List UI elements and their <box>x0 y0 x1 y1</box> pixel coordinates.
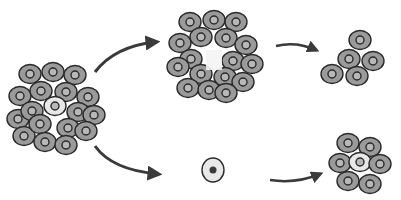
small-cluster-bottom <box>329 134 391 194</box>
ring-cluster <box>167 11 263 103</box>
origin-cluster <box>7 63 105 155</box>
arrow-to-single-cell <box>95 146 158 174</box>
small-cluster-top <box>321 31 384 86</box>
diagram-canvas <box>0 0 401 200</box>
arrow-to-small-cluster-top <box>276 44 316 50</box>
single-cell <box>202 158 224 182</box>
arrow-to-ring-cluster <box>95 42 156 72</box>
arrow-to-small-cluster-bottom <box>270 174 320 181</box>
